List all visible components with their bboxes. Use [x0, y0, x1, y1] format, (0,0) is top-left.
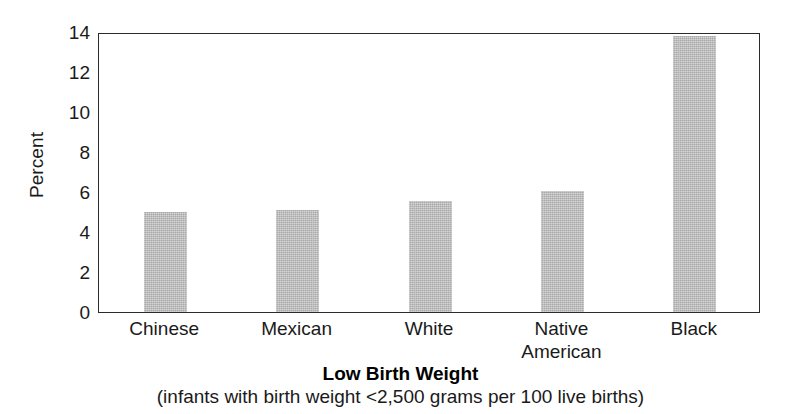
y-tick-label: 12: [56, 63, 90, 82]
x-axis-category-label: Mexican: [230, 317, 362, 340]
category-label-line1: Chinese: [129, 318, 199, 339]
x-axis-category-label: NativeAmerican: [495, 317, 627, 363]
bar: [541, 191, 584, 312]
x-axis-category-label: Chinese: [98, 317, 230, 340]
y-tick-label: 2: [56, 263, 90, 282]
bar: [409, 201, 452, 312]
caption-title: Low Birth Weight: [0, 362, 801, 385]
bar: [144, 212, 187, 312]
category-label-line2: American: [495, 340, 627, 363]
y-tick-label: 4: [56, 223, 90, 242]
x-axis-category-label: Black: [628, 317, 760, 340]
bar: [673, 36, 716, 312]
caption-subtitle: (infants with birth weight <2,500 grams …: [0, 385, 801, 409]
category-label-line1: Mexican: [261, 318, 332, 339]
y-tick-label: 0: [56, 303, 90, 322]
y-tick-label: 10: [56, 103, 90, 122]
y-axis-title-text: Percent: [26, 132, 48, 198]
y-tick-label: 6: [56, 183, 90, 202]
chart-figure: Percent 02468101214 ChineseMexicanWhiteN…: [0, 0, 801, 414]
category-label-line1: Native: [534, 318, 588, 339]
x-axis-category-label: White: [363, 317, 495, 340]
category-label-line1: White: [405, 318, 454, 339]
chart-caption: Low Birth Weight (infants with birth wei…: [0, 362, 801, 409]
y-tick-label: 14: [56, 23, 90, 42]
plot-area: [98, 33, 760, 313]
y-tick-label: 8: [56, 143, 90, 162]
bar-series: [99, 34, 759, 312]
bar: [276, 210, 319, 312]
category-label-line1: Black: [671, 318, 717, 339]
